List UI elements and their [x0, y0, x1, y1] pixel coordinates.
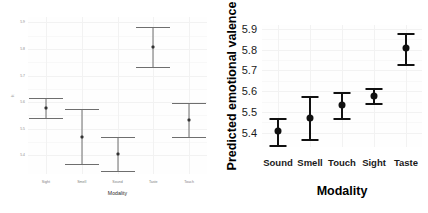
x-tick-label: Sound	[112, 180, 122, 184]
error-bar-cap-upper	[334, 92, 351, 94]
y-axis-title-left: fit	[11, 94, 15, 97]
x-tick-label: Taste	[394, 157, 418, 168]
y-tick-label: 5.5	[20, 127, 25, 131]
x-tick-label: Sound	[263, 157, 293, 168]
error-bar-cap-upper	[172, 103, 206, 104]
data-point-sound	[116, 153, 119, 156]
error-bar-cap-lower	[101, 171, 135, 172]
gridline-vertical	[374, 25, 375, 147]
error-bar-cap-lower	[65, 164, 99, 165]
data-point-touch	[188, 119, 191, 122]
gridline-vertical	[189, 17, 190, 174]
data-point-smell	[80, 135, 83, 138]
x-axis-title-left: Modality	[108, 190, 127, 196]
x-tick-label: Sight	[362, 157, 386, 168]
data-point-sound	[275, 128, 282, 135]
error-bar-cap-lower	[398, 64, 415, 66]
data-point-taste	[152, 46, 155, 49]
error-bar-smell	[62, 109, 102, 164]
chart-panel-right: 5.45.55.65.75.85.9 SoundSmellTouchSightT…	[214, 0, 428, 213]
error-bar-cap-upper	[65, 109, 99, 110]
error-bar-taste	[133, 27, 173, 67]
y-tick-label: 5.5	[242, 106, 257, 118]
data-point-smell	[307, 114, 314, 121]
two-panel-figure: 5.45.55.65.75.85.9 SightSmellSoundTasteT…	[0, 0, 428, 213]
x-axis-title-right: Modality	[317, 184, 368, 198]
y-axis-title-right: Predicted emotional valence	[225, 2, 239, 171]
error-bar-cap-lower	[302, 139, 319, 141]
gridline-vertical	[46, 17, 47, 174]
x-tick-label: Sight	[42, 180, 50, 184]
y-tick-label: 5.4	[242, 127, 257, 139]
data-point-touch	[339, 101, 346, 108]
error-bar-taste	[386, 33, 426, 64]
error-bar-cap-lower	[366, 103, 383, 105]
error-bar-cap-lower	[334, 118, 351, 120]
error-bar-sight	[26, 98, 66, 117]
gridline-vertical	[342, 25, 343, 147]
y-tick-label: 5.9	[20, 20, 25, 24]
error-bar-cap-upper	[302, 96, 319, 98]
error-bar-cap-lower	[136, 67, 170, 68]
y-tick-label: 5.6	[20, 100, 25, 104]
data-point-sight	[44, 107, 47, 110]
error-bar-cap-upper	[398, 33, 415, 35]
y-tick-label: 5.7	[242, 64, 257, 76]
y-tick-label: 5.8	[20, 47, 25, 51]
y-tick-label: 5.4	[20, 153, 25, 157]
error-bar-cap-upper	[101, 137, 135, 138]
error-bar-touch	[169, 103, 209, 137]
x-tick-label: Smell	[297, 157, 322, 168]
data-point-taste	[403, 45, 410, 52]
x-tick-label: Touch	[328, 157, 356, 168]
error-bar-cap-lower	[172, 137, 206, 138]
y-tick-label: 5.8	[242, 44, 257, 56]
error-bar-sight	[354, 88, 394, 103]
y-tick-label: 5.7	[20, 74, 25, 78]
x-tick-label: Smell	[77, 180, 86, 184]
error-bar-cap-upper	[270, 118, 287, 120]
data-point-sight	[371, 92, 378, 99]
error-bar-cap-upper	[29, 98, 63, 99]
x-tick-label: Touch	[184, 180, 194, 184]
y-tick-label: 5.9	[242, 23, 257, 35]
error-bar-cap-upper	[366, 88, 383, 90]
error-bar-cap-lower	[29, 118, 63, 119]
chart-panel-left: 5.45.55.65.75.85.9 SightSmellSoundTasteT…	[0, 0, 214, 213]
x-tick-label: Taste	[149, 180, 158, 184]
y-tick-label: 5.6	[242, 85, 257, 97]
error-bar-cap-lower	[270, 145, 287, 147]
error-bar-cap-upper	[136, 27, 170, 28]
error-bar-sound	[98, 137, 138, 171]
